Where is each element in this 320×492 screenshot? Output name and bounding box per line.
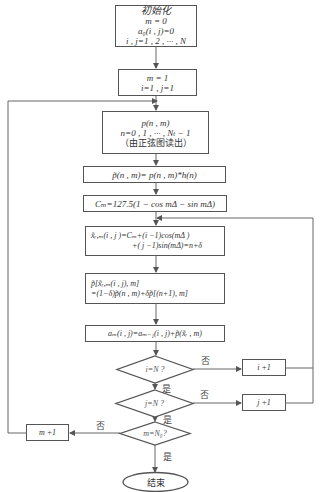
read-p-line-1: p(n , m) — [141, 118, 169, 128]
decision-m-text: m=N₀? — [120, 422, 190, 445]
label-no-i: 否 — [201, 354, 210, 367]
filter-text: p̃(n , m)= p(n , m)*h(n) — [112, 170, 196, 180]
cm-box: Cₘ=127.5(1 − cos mΔ − sin mΔ) — [83, 195, 227, 212]
label-yes-j: 是 — [163, 413, 172, 426]
xr-box: x̃ᵣ,ₘ(i , j )=Cₘ+(i −1)cos(mΔ ) +( j −1)… — [85, 226, 225, 256]
label-yes-m: 是 — [163, 450, 172, 463]
interp-box: p̃[x̃ᵣ,ₘ(i , j), m] =(1−δ)p̃(n , m)+δp̃[… — [85, 273, 225, 304]
inc-i-text: i +1 — [257, 363, 271, 373]
label-yes-i: 是 — [162, 382, 171, 395]
inc-i-box: i +1 — [242, 359, 286, 376]
init-line-3: i , j=1 , 2 , ··· , N — [126, 36, 186, 46]
interp-line-1: p̃[x̃ᵣ,ₘ(i , j), m] — [86, 279, 139, 289]
end-text: 结束 — [123, 473, 188, 492]
init-line-2: a₀(i , j)=0 — [138, 26, 174, 36]
xr-line-2: +( j −1)sin(mΔ)=n+δ — [108, 241, 202, 251]
xr-line-1: x̃ᵣ,ₘ(i , j )=Cₘ+(i −1)cos(mΔ ) — [86, 231, 190, 241]
inc-m-text: m +1 — [39, 428, 56, 438]
interp-line-2: =(1−δ)p̃(n , m)+δp̃[(n+1), m] — [86, 289, 188, 299]
accum-text: aₘ(i , j)=aₘ₋₁(i , j)+p̃(x̃ᵣ , m) — [108, 329, 202, 339]
init-box: 初始化 m = 0 a₀(i , j)=0 i , j=1 , 2 , ··· … — [115, 5, 197, 47]
read-p-line-2: n=0 , 1 , ··· , Nₜ − 1 — [121, 128, 191, 138]
set-m1-box: m = 1 i=1 , j=1 — [118, 69, 197, 96]
set-m1-line-2: i=1 , j=1 — [141, 83, 174, 93]
inc-m-box: m +1 — [26, 424, 69, 441]
decision-i-text: i=N ? — [117, 356, 193, 383]
read-p-line-3: （由正弦图读出） — [120, 138, 192, 148]
inc-j-box: j +1 — [242, 394, 286, 411]
init-title: 初始化 — [141, 6, 171, 16]
set-m1-line-1: m = 1 — [147, 73, 169, 83]
filter-box: p̃(n , m)= p(n , m)*h(n) — [83, 166, 226, 183]
init-line-1: m = 0 — [145, 16, 167, 26]
inc-j-text: j +1 — [257, 398, 271, 408]
cm-text: Cₘ=127.5(1 − cos mΔ − sin mΔ) — [95, 199, 215, 209]
label-no-m: 否 — [96, 419, 105, 432]
accum-box: aₘ(i , j)=aₘ₋₁(i , j)+p̃(x̃ᵣ , m) — [85, 325, 225, 342]
read-p-box: p(n , m) n=0 , 1 , ··· , Nₜ − 1 （由正弦图读出） — [102, 111, 209, 154]
label-no-j: 否 — [200, 388, 209, 401]
decision-j-text: j=N ? — [116, 390, 193, 417]
